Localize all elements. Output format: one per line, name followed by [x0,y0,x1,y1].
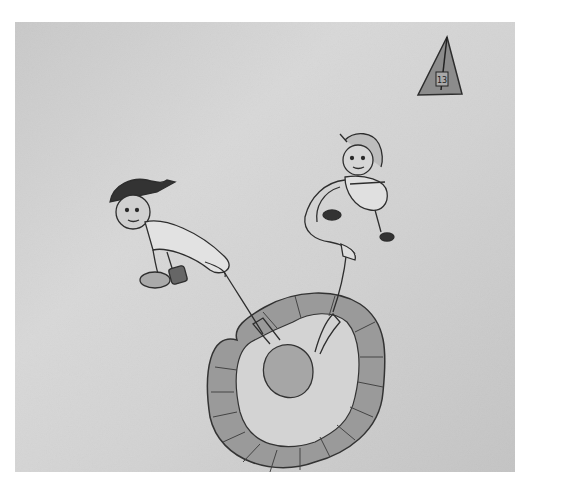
center-ball [263,345,313,398]
caption-text-fragment: ···· [150,0,188,8]
drawing-photo: 13 [15,22,515,472]
flag-label: 13 [437,76,447,85]
cropped-caption-fragment: ···· [0,0,585,8]
drawing-canvas: 13 [15,22,515,472]
